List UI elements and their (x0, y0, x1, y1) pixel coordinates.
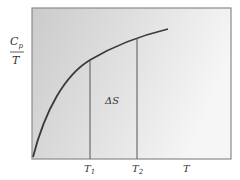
t2-label: T2 (132, 163, 144, 176)
x-axis-label: T (183, 163, 191, 174)
entropy-diagram: Cp T ΔS T1 T2 T (0, 0, 240, 180)
delta-s-label: ΔS (104, 95, 119, 106)
y-label-numerator: Cp (10, 35, 23, 50)
y-label-denominator: T (12, 54, 21, 67)
plot-frame (32, 8, 231, 159)
t1-label: T1 (84, 163, 95, 176)
